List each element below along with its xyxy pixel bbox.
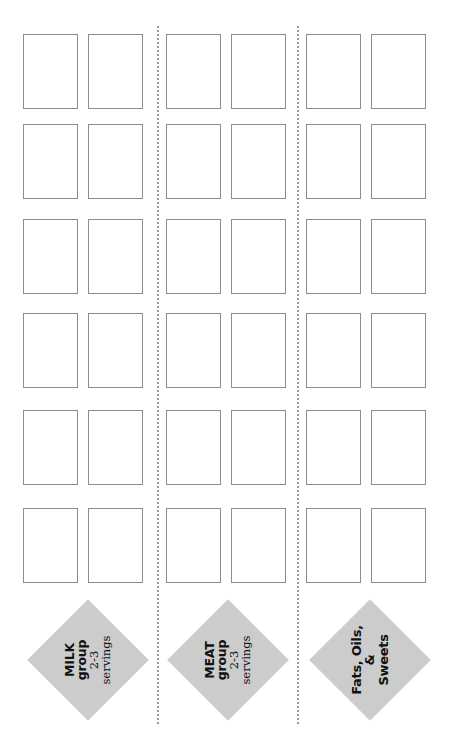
- serving-checkbox[interactable]: [231, 313, 286, 388]
- worksheet-page: MILK group 2-3 servings MEAT group 2-3 s…: [0, 0, 456, 738]
- group-line: Sweets: [377, 634, 390, 685]
- serving-checkbox[interactable]: [88, 124, 143, 199]
- serving-checkbox[interactable]: [88, 410, 143, 485]
- group-line: servings: [241, 635, 253, 684]
- serving-checkbox[interactable]: [306, 34, 361, 109]
- group-line: &: [363, 654, 376, 665]
- serving-checkbox[interactable]: [166, 124, 221, 199]
- serving-checkbox[interactable]: [23, 410, 78, 485]
- group-line: servings: [101, 635, 113, 684]
- group-line: Fats, Oils,: [350, 625, 363, 695]
- serving-checkbox[interactable]: [88, 34, 143, 109]
- serving-checkbox[interactable]: [231, 124, 286, 199]
- group-divider-2: [297, 26, 299, 726]
- food-group-diamond-milk: MILK group 2-3 servings: [27, 599, 149, 721]
- serving-checkbox[interactable]: [23, 219, 78, 294]
- serving-checkbox[interactable]: [306, 219, 361, 294]
- serving-checkbox[interactable]: [166, 508, 221, 583]
- serving-checkbox[interactable]: [306, 313, 361, 388]
- serving-checkbox[interactable]: [231, 34, 286, 109]
- serving-checkbox[interactable]: [371, 410, 426, 485]
- serving-checkbox[interactable]: [23, 313, 78, 388]
- food-group-label-milk: MILK group 2-3 servings: [45, 617, 131, 703]
- serving-checkbox[interactable]: [166, 34, 221, 109]
- serving-checkbox[interactable]: [166, 219, 221, 294]
- serving-checkbox[interactable]: [166, 313, 221, 388]
- serving-checkbox[interactable]: [306, 410, 361, 485]
- serving-checkbox[interactable]: [231, 219, 286, 294]
- serving-checkbox[interactable]: [23, 34, 78, 109]
- serving-checkbox[interactable]: [371, 124, 426, 199]
- food-group-label-fats-oils-sweets: Fats, Oils, & Sweets: [327, 617, 413, 703]
- serving-checkbox[interactable]: [371, 219, 426, 294]
- serving-checkbox[interactable]: [88, 313, 143, 388]
- serving-checkbox[interactable]: [371, 34, 426, 109]
- serving-checkbox[interactable]: [306, 508, 361, 583]
- serving-checkbox[interactable]: [371, 508, 426, 583]
- serving-checkbox[interactable]: [306, 124, 361, 199]
- serving-checkbox[interactable]: [166, 410, 221, 485]
- food-group-diamond-fats-oils-sweets: Fats, Oils, & Sweets: [309, 599, 431, 721]
- food-group-label-meat: MEAT group 2-3 servings: [185, 617, 271, 703]
- serving-checkbox[interactable]: [23, 124, 78, 199]
- serving-checkbox[interactable]: [371, 313, 426, 388]
- serving-checkbox[interactable]: [23, 508, 78, 583]
- food-group-diamond-meat: MEAT group 2-3 servings: [167, 599, 289, 721]
- serving-checkbox[interactable]: [88, 219, 143, 294]
- serving-checkbox[interactable]: [231, 508, 286, 583]
- group-divider-1: [157, 26, 159, 726]
- serving-checkbox[interactable]: [231, 410, 286, 485]
- servings-checkbox-grid: [0, 0, 456, 592]
- serving-checkbox[interactable]: [88, 508, 143, 583]
